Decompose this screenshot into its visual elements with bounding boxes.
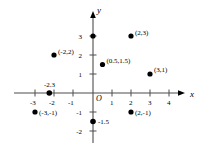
data-point-label: (2,3) <box>135 29 149 37</box>
data-point <box>90 33 95 38</box>
data-point-label: (3,1) <box>154 66 168 74</box>
x-tick-label: -3 <box>30 99 36 107</box>
x-tick-label: 3 <box>148 99 152 107</box>
y-tick-label: -1 <box>76 109 82 117</box>
data-point-label: -2.3 <box>44 81 56 89</box>
plot-svg: x y -3 -2 -1 1 2 3 4 <box>0 0 207 157</box>
data-point <box>51 52 56 57</box>
y-tick-label: 2 <box>79 52 83 60</box>
coordinate-plane-figure: x y -3 -2 -1 1 2 3 4 <box>0 0 207 157</box>
data-point-label: -1.5 <box>98 118 110 126</box>
y-axis-label: y <box>96 5 101 15</box>
data-point-label: (-2,2) <box>58 48 74 56</box>
data-point <box>100 62 105 67</box>
data-points: (2,3) (-2,2) (0.5,1.5) (3,1) -2.3 (-3,-1… <box>32 29 168 126</box>
data-point-label: (2,-1) <box>135 109 151 117</box>
x-axis-arrow <box>178 90 185 96</box>
y-tick-label: 3 <box>79 33 83 41</box>
x-tick-label: 1 <box>110 99 114 107</box>
x-tick-label: -1 <box>68 99 74 107</box>
x-tick-label: 2 <box>129 99 133 107</box>
data-point-label: (-3,-1) <box>39 109 58 117</box>
y-tick-label: -2 <box>76 128 82 136</box>
x-axis-label: x <box>189 89 194 99</box>
data-point-label: (0.5,1.5) <box>107 57 132 65</box>
y-tick-label: 1 <box>79 71 83 79</box>
data-point <box>147 71 152 76</box>
x-tick-label: 4 <box>167 99 171 107</box>
y-axis-arrow <box>90 11 96 18</box>
data-point <box>128 33 133 38</box>
data-point <box>90 119 96 125</box>
data-point <box>128 109 133 114</box>
data-point <box>32 109 37 114</box>
origin-label: O <box>96 94 102 103</box>
x-tick-label: -2 <box>49 99 55 107</box>
data-point <box>47 90 53 96</box>
x-axis: x <box>14 89 194 99</box>
